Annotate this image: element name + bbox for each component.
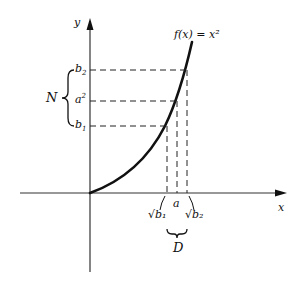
brace-d-icon — [167, 229, 187, 238]
vertical-guides — [167, 70, 187, 193]
function-label: f(x) = x² — [174, 29, 220, 40]
parabola-curve — [90, 42, 192, 193]
x-mark-sqrt-b1: √b₁ — [148, 209, 166, 220]
x-mark-a: a — [173, 198, 180, 209]
diagram-canvas: y x f(x) = x² b2 a2 b1 N √b₁ a √b₂ D — [0, 0, 300, 285]
diagram-graphics — [0, 0, 300, 285]
y-axis — [87, 18, 94, 272]
x-mark-sqrt-b2: √b₂ — [185, 209, 203, 220]
x-axis-arrow-icon — [275, 190, 287, 197]
x-axis — [20, 190, 287, 197]
horizontal-guides — [90, 70, 187, 126]
brace-d-label: D — [173, 241, 183, 254]
y-mark-b1: b1 — [75, 119, 87, 133]
x-axis-label: x — [278, 202, 284, 213]
brace-n-icon — [62, 70, 74, 126]
y-mark-b2: b2 — [75, 63, 87, 77]
y-mark-a2: a2 — [75, 93, 86, 105]
y-axis-arrow-icon — [87, 18, 94, 30]
y-axis-label: y — [74, 17, 80, 28]
brace-n-label: N — [46, 91, 57, 104]
